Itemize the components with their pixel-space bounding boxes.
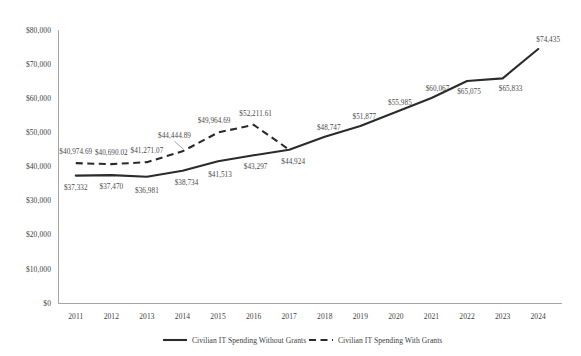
label-leader-line <box>175 141 184 149</box>
series-line-with-grants <box>76 125 289 164</box>
x-axis-tick-label: 2017 <box>282 312 298 321</box>
data-label-without-grants: $74,435 <box>536 36 560 44</box>
x-axis-tick-label: 2018 <box>317 312 333 321</box>
x-axis-tick-label: 2016 <box>246 312 262 321</box>
x-axis-tick-label: 2011 <box>68 312 83 321</box>
series-line-without-grants <box>76 49 538 177</box>
data-label-with-grants: $40,690.02 <box>95 149 128 157</box>
data-label-without-grants: $43,297 <box>244 163 268 171</box>
x-axis-tick-label: 2019 <box>353 312 369 321</box>
chart-legend: Civilian IT Spending Without GrantsCivil… <box>163 336 442 345</box>
y-axis-tick-label: $70,000 <box>26 60 51 69</box>
data-label-with-grants: $52,211.61 <box>239 110 272 118</box>
legend-label-without-grants: Civilian IT Spending Without Grants <box>192 336 306 345</box>
data-label-without-grants: $38,734 <box>175 179 199 187</box>
y-axis-tick-label: $0 <box>43 299 51 308</box>
data-label-without-grants: $36,981 <box>135 187 159 195</box>
x-axis-tick-label: 2012 <box>104 312 120 321</box>
y-axis-tick-label: $40,000 <box>26 162 51 171</box>
series-lines <box>76 49 538 177</box>
data-label-without-grants: $41,513 <box>208 171 232 179</box>
data-label-with-grants: $41,271.07 <box>131 147 164 155</box>
x-axis-tick-label: 2024 <box>531 312 547 321</box>
x-axis-tick-label: 2023 <box>495 312 511 321</box>
data-label-without-grants: $60,067 <box>426 85 450 93</box>
data-label-with-grants: $44,444.89 <box>158 132 191 140</box>
data-point-labels: $37,332$37,470$36,981$38,734$41,513$43,2… <box>59 36 560 195</box>
data-label-without-grants: $37,332 <box>64 184 88 192</box>
data-label-with-grants: $40,974.69 <box>59 148 92 156</box>
legend-label-with-grants: Civilian IT Spending With Grants <box>338 336 442 345</box>
x-axis-tick-label: 2015 <box>210 312 226 321</box>
y-axis-tick-label: $20,000 <box>26 230 51 239</box>
chart-container: $80,000$70,000$60,000$50,000$40,000$30,0… <box>0 0 581 356</box>
data-label-without-grants: $65,075 <box>457 88 481 96</box>
data-label-without-grants: $44,924 <box>281 158 305 166</box>
x-axis-tick-label: 2014 <box>175 312 191 321</box>
y-axis-tick-label: $50,000 <box>26 128 51 137</box>
x-axis-tick-label: 2020 <box>388 312 404 321</box>
data-label-without-grants: $48,747 <box>317 124 341 132</box>
x-axis-tick-labels: 2011201220132014201520162017201820192020… <box>68 312 546 321</box>
data-label-with-grants: $49,964.69 <box>198 117 231 125</box>
y-axis-tick-label: $60,000 <box>26 94 51 103</box>
y-axis-tick-label: $80,000 <box>26 26 51 35</box>
x-axis-tick-label: 2022 <box>459 312 475 321</box>
line-chart: $80,000$70,000$60,000$50,000$40,000$30,0… <box>0 0 581 356</box>
data-label-without-grants: $55,985 <box>388 99 412 107</box>
x-axis-tick-label: 2013 <box>139 312 155 321</box>
data-label-without-grants: $37,470 <box>99 183 123 191</box>
data-label-without-grants: $65,833 <box>499 85 523 93</box>
y-axis-tick-label: $10,000 <box>26 265 51 274</box>
y-axis-tick-label: $30,000 <box>26 196 51 205</box>
data-label-without-grants: $51,877 <box>352 113 376 121</box>
x-axis-tick-label: 2021 <box>424 312 440 321</box>
y-axis-tick-labels: $80,000$70,000$60,000$50,000$40,000$30,0… <box>26 26 51 308</box>
